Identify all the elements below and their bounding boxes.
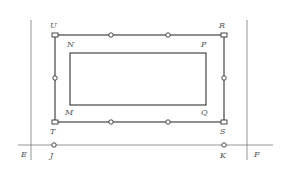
outer-rectangle-URST	[55, 35, 224, 122]
label-M: M	[64, 108, 74, 117]
label-U: U	[50, 21, 57, 30]
corner-marker-T	[52, 120, 58, 124]
inner-rectangle-NPQM	[70, 53, 206, 105]
geometry-diagram: U R T S N P M Q E F J K	[0, 0, 290, 169]
node-left	[53, 76, 57, 80]
label-E: E	[20, 150, 27, 159]
label-P: P	[200, 40, 207, 49]
label-Q: Q	[201, 108, 208, 117]
corner-marker-U	[52, 33, 58, 37]
node-right	[222, 76, 226, 80]
node-bottom-1	[109, 120, 113, 124]
label-J: J	[48, 151, 54, 160]
node-top-2	[166, 33, 170, 37]
label-R: R	[218, 21, 225, 30]
label-N: N	[66, 40, 75, 49]
node-top-1	[109, 33, 113, 37]
label-S: S	[220, 127, 226, 136]
point-K	[222, 143, 226, 147]
label-F: F	[253, 150, 260, 159]
label-K: K	[219, 151, 227, 160]
node-bottom-2	[166, 120, 170, 124]
label-T: T	[50, 127, 56, 136]
corner-marker-S	[221, 120, 227, 124]
corner-marker-R	[221, 33, 227, 37]
point-J	[52, 143, 56, 147]
